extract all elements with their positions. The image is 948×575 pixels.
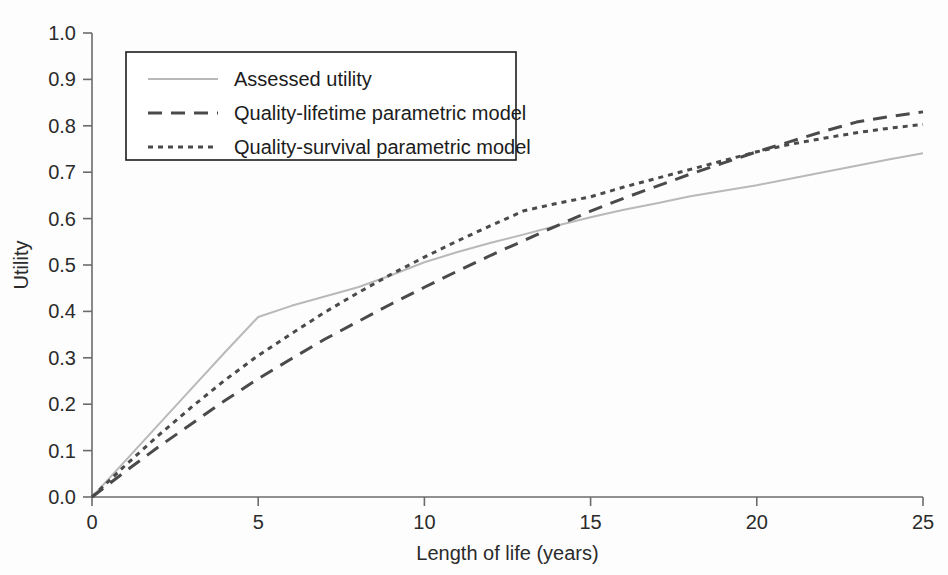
line-chart: 0.00.10.20.30.40.50.60.70.80.91.0 051015… [0,0,948,575]
y-tick-label: 0.6 [48,208,76,230]
y-tick-label: 0.3 [48,347,76,369]
data-series-group [92,112,923,497]
y-tick-label: 0.1 [48,440,76,462]
y-tick-label: 0.4 [48,300,76,322]
series-line-0 [92,153,923,497]
y-tick-label: 0.9 [48,68,76,90]
x-tick-label: 10 [413,511,435,533]
x-axis: 0510152025 [86,497,934,533]
legend-label-1: Quality-lifetime parametric model [234,102,526,124]
chart-legend: Assessed utilityQuality-lifetime paramet… [126,52,531,160]
x-axis-tick-labels: 0510152025 [86,511,934,533]
y-axis: 0.00.10.20.30.40.50.60.70.80.91.0 [48,22,92,508]
y-axis-title: Utility [10,241,32,290]
y-tick-label: 0.2 [48,393,76,415]
series-line-1 [92,112,923,497]
figure-container: 0.00.10.20.30.40.50.60.70.80.91.0 051015… [0,0,948,575]
x-axis-ticks [92,497,923,506]
y-tick-label: 0.8 [48,115,76,137]
x-tick-label: 25 [912,511,934,533]
y-axis-ticks [83,33,92,497]
legend-label-2: Quality-survival parametric model [234,136,531,158]
series-line-2 [92,124,923,497]
y-tick-label: 0.0 [48,486,76,508]
y-axis-tick-labels: 0.00.10.20.30.40.50.60.70.80.91.0 [48,22,76,508]
legend-label-0: Assessed utility [234,68,372,90]
x-tick-label: 5 [253,511,264,533]
x-tick-label: 20 [746,511,768,533]
y-tick-label: 0.7 [48,161,76,183]
y-tick-label: 0.5 [48,254,76,276]
x-tick-label: 0 [86,511,97,533]
x-tick-label: 15 [579,511,601,533]
x-axis-title: Length of life (years) [416,542,598,564]
y-tick-label: 1.0 [48,22,76,44]
